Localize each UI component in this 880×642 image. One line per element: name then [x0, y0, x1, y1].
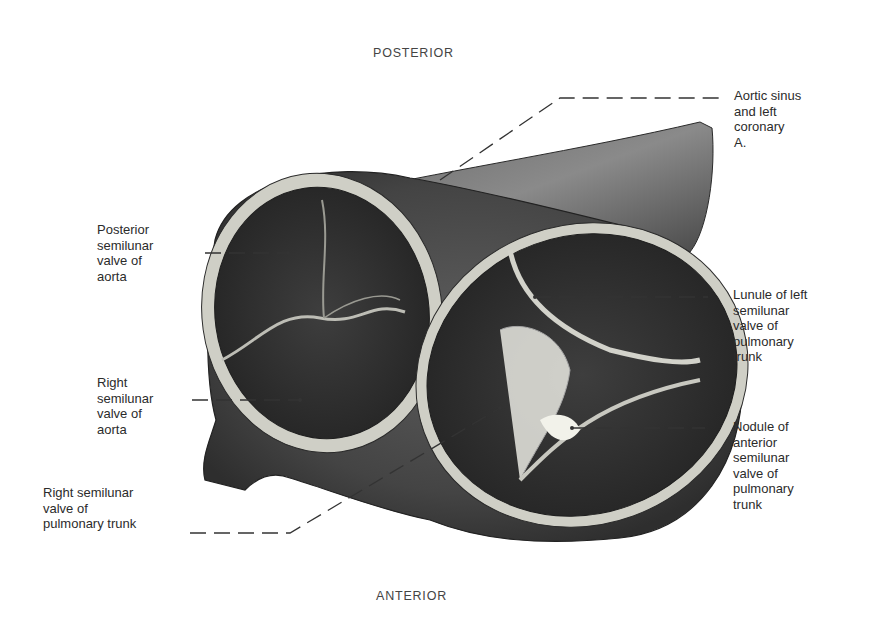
orientation-anterior: ANTERIOR	[376, 589, 447, 603]
label-aortic-sinus-left-coronary: Aortic sinus and left coronary A.	[734, 88, 801, 150]
orientation-posterior: POSTERIOR	[373, 46, 454, 60]
label-nodule-anterior-semilunar-valve: Nodule of anterior semilunar valve of pu…	[733, 419, 794, 512]
label-right-semilunar-valve-pulmonary: Right semilunar valve of pulmonary trunk	[43, 485, 136, 532]
label-lunule-left-semilunar-valve: Lunule of left semilunar valve of pulmon…	[733, 287, 807, 365]
label-posterior-semilunar-valve-aorta: Posterior semilunar valve of aorta	[97, 222, 153, 284]
label-right-semilunar-valve-aorta: Right semilunar valve of aorta	[97, 375, 153, 437]
